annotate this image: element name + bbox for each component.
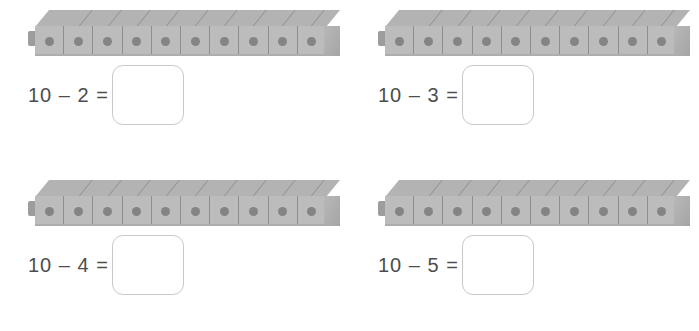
equation-row: 10 – 3 = (378, 62, 534, 128)
cube-dot-icon (74, 207, 83, 216)
cube-dot-icon (74, 37, 83, 46)
cube (181, 26, 210, 56)
cube (648, 196, 676, 226)
cube (443, 26, 472, 56)
cube-dot-icon (249, 207, 258, 216)
cube (35, 196, 64, 226)
equation-text: 10 – 5 = (378, 255, 459, 275)
cube-dot-icon (249, 37, 258, 46)
cube-dot-icon (511, 207, 520, 216)
equation-row: 10 – 5 = (378, 232, 534, 298)
cube (93, 196, 122, 226)
answer-input-box[interactable] (462, 235, 534, 295)
cube-dot-icon (45, 37, 54, 46)
cube (414, 196, 443, 226)
worksheet-canvas: 10 – 2 = (0, 0, 699, 331)
cube-dot-icon (541, 37, 550, 46)
cube-dot-icon (220, 37, 229, 46)
cube (152, 26, 181, 56)
cube-bar-icon (378, 10, 690, 56)
cube-dot-icon (395, 37, 404, 46)
cube (589, 196, 618, 226)
cube (443, 196, 472, 226)
cube-dot-icon (511, 37, 520, 46)
cube-dot-icon (395, 207, 404, 216)
cube (385, 196, 414, 226)
cube (181, 196, 210, 226)
cube-bar-icon (378, 180, 690, 226)
cube-bar-end-cap (324, 26, 340, 56)
cube (64, 26, 93, 56)
cube-bar-shadow (385, 224, 676, 226)
cube (123, 196, 152, 226)
answer-input-box[interactable] (112, 235, 184, 295)
cube-bar-shadow (385, 54, 676, 56)
cube (502, 196, 531, 226)
cube-dot-icon (307, 207, 316, 216)
cube-bar-end-cap (674, 26, 690, 56)
answer-input-box[interactable] (462, 65, 534, 125)
cube-bar-front-face (385, 196, 676, 226)
cube (473, 26, 502, 56)
cube-dot-icon (103, 37, 112, 46)
cube-bar-front-face (385, 26, 676, 56)
cube (210, 196, 239, 226)
cube-dot-icon (628, 37, 637, 46)
cube-bar-top-face (385, 10, 690, 27)
problem-1: 10 – 2 = (0, 0, 349, 165)
cube-dot-icon (278, 37, 287, 46)
cube-dot-icon (424, 207, 433, 216)
cube-bar-top-face (35, 180, 340, 197)
cube (298, 196, 326, 226)
cube (502, 26, 531, 56)
cube-bar-icon (28, 180, 340, 226)
problem-2: 10 – 3 = (350, 0, 699, 165)
cube-dot-icon (424, 37, 433, 46)
cube (210, 26, 239, 56)
cube-dot-icon (657, 207, 666, 216)
cube (560, 196, 589, 226)
problem-4: 10 – 5 = (350, 170, 699, 331)
cube-bar-end-cap (674, 196, 690, 226)
cube-dot-icon (191, 37, 200, 46)
equation-text: 10 – 3 = (378, 85, 459, 105)
cube-bar-end-cap (324, 196, 340, 226)
cube-bar-front-face (35, 196, 326, 226)
cube-dot-icon (278, 207, 287, 216)
cube (269, 196, 298, 226)
cube-dot-icon (161, 207, 170, 216)
cube-bar-top-face (385, 180, 690, 197)
cube (64, 196, 93, 226)
cube (239, 26, 268, 56)
cube (589, 26, 618, 56)
answer-input-box[interactable] (112, 65, 184, 125)
cube (531, 196, 560, 226)
cube (35, 26, 64, 56)
cube-bar-shadow (35, 224, 326, 226)
cube (619, 26, 648, 56)
cube-bar-shadow (35, 54, 326, 56)
cube-dot-icon (570, 37, 579, 46)
cube-bar-icon (28, 10, 340, 56)
cube-dot-icon (132, 207, 141, 216)
equation-text: 10 – 2 = (28, 85, 109, 105)
equation-text: 10 – 4 = (28, 255, 109, 275)
cube (531, 26, 560, 56)
cube (298, 26, 326, 56)
cube (269, 26, 298, 56)
cube (648, 26, 676, 56)
cube-bar-top-face (35, 10, 340, 27)
cube-dot-icon (307, 37, 316, 46)
cube-dot-icon (628, 207, 637, 216)
cube (93, 26, 122, 56)
cube-dot-icon (482, 207, 491, 216)
equation-row: 10 – 2 = (28, 62, 184, 128)
cube-dot-icon (599, 207, 608, 216)
cube (414, 26, 443, 56)
problem-3: 10 – 4 = (0, 170, 349, 331)
cube-dot-icon (599, 37, 608, 46)
cube-dot-icon (570, 207, 579, 216)
cube-dot-icon (453, 37, 462, 46)
equation-row: 10 – 4 = (28, 232, 184, 298)
cube (123, 26, 152, 56)
